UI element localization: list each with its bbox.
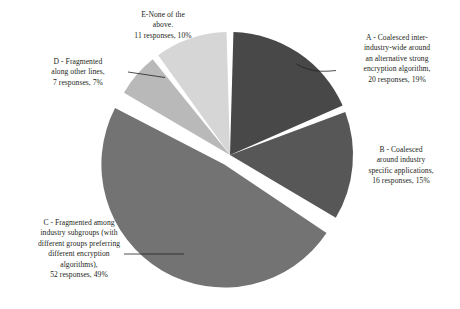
pie-label-c: C - Fragmented among industry subgroups … [6,218,152,280]
pie-label-e: E-None of the above. 11 responses, 10% [110,10,216,41]
pie-label-a: A - Coalesced inter- industry-wide aroun… [336,33,458,85]
pie-label-b: B - Coalesced around industry specific a… [344,145,458,187]
pie-chart-figure: A - Coalesced inter- industry-wide aroun… [0,0,460,309]
pie-label-d: D - Fragmented along other lines, 7 resp… [22,57,134,88]
